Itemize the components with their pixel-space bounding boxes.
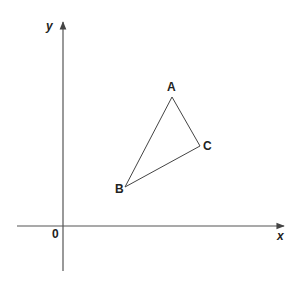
vertex-c-label: C xyxy=(203,139,212,153)
diagram-canvas: x y 0 A B C xyxy=(0,0,295,285)
vertex-b-label: B xyxy=(115,182,124,196)
origin-label: 0 xyxy=(52,227,59,241)
vertex-a-label: A xyxy=(167,80,176,94)
x-axis-label: x xyxy=(276,229,285,243)
triangle-abc xyxy=(125,97,200,187)
y-axis-label: y xyxy=(45,19,54,33)
coordinate-plane: x y 0 A B C xyxy=(0,0,295,285)
